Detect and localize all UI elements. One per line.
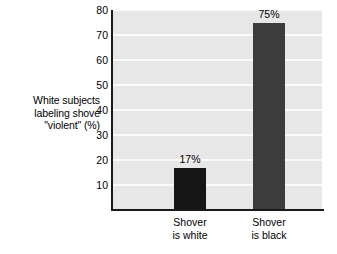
y-axis-tick-40: 40 [84,105,108,116]
gridline-40 [113,109,322,111]
x-axis-category-label-1: Shoveris white [145,216,235,241]
y-axis-tick-60: 60 [84,55,108,66]
y-axis-tick-30: 30 [84,130,108,141]
y-axis-tick-70: 70 [84,30,108,41]
gridline-70 [113,34,322,36]
bar-value-label-2: 75% [239,9,299,20]
plot-area [113,10,322,210]
gridline-50 [113,84,322,86]
gridline-30 [113,134,322,136]
gridline-10 [113,184,322,186]
x-axis-line [111,209,324,211]
bar-1[interactable] [174,168,206,211]
bar-2[interactable] [253,23,285,211]
x-axis-category-2-line-2: is black [224,229,314,242]
y-axis-tick-80: 80 [84,5,108,16]
y-axis-tick-20: 20 [84,155,108,166]
bar-chart-figure: White subjects labeling shove "violent" … [0,0,337,254]
x-axis-category-label-2: Shoveris black [224,216,314,241]
y-axis-tick-labels: 1020304050607080 [84,10,108,210]
y-axis-line [111,10,113,210]
x-axis-category-1-line-1: Shover [145,216,235,229]
y-axis-tick-10: 10 [84,180,108,191]
x-axis-category-1-line-2: is white [145,229,235,242]
y-axis-tick-50: 50 [84,80,108,91]
x-axis-category-2-line-1: Shover [224,216,314,229]
bar-value-label-1: 17% [160,154,220,165]
gridline-60 [113,59,322,61]
